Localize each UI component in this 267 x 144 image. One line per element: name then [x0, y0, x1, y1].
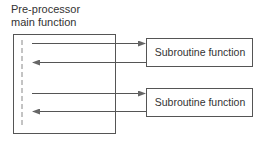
subroutine-label-1: Subroutine function [147, 46, 253, 58]
flow-diagram [0, 0, 267, 144]
subroutine-label-2: Subroutine function [147, 96, 253, 108]
main-function-box [14, 35, 116, 134]
